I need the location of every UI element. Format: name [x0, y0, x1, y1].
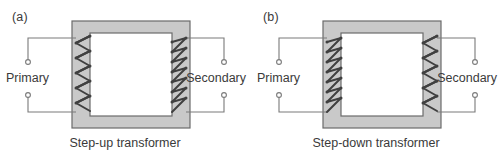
transformer-figure: (a) — [0, 0, 501, 156]
secondary-label-a: Secondary — [186, 71, 246, 85]
secondary-label-b: Secondary — [437, 71, 497, 85]
primary-label-a: Primary — [6, 71, 49, 85]
primary-label-b: Primary — [257, 71, 300, 85]
caption-step-down: Step-down transformer — [251, 136, 501, 150]
panel-step-up: (a) — [0, 0, 250, 156]
panel-step-down: (b) — [251, 0, 501, 156]
caption-step-up: Step-up transformer — [0, 136, 250, 150]
